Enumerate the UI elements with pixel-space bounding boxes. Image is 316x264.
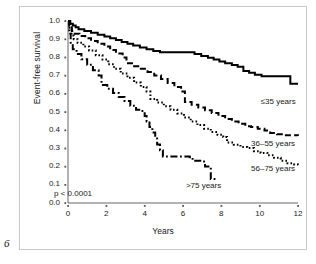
figure-root: 6 Event-free survival Years 0.00.10.20.3… — [0, 0, 316, 264]
x-tick-label: 2 — [96, 209, 116, 218]
y-tick-label: 0.7 — [38, 70, 60, 79]
series-label-3: >75 years — [186, 181, 221, 190]
chart-frame: Event-free survival Years 0.00.10.20.30.… — [19, 6, 307, 250]
x-tick-label: 0 — [58, 209, 78, 218]
x-tick-label: 12 — [288, 209, 308, 218]
y-tick-mark — [64, 148, 66, 150]
x-tick-mark — [144, 205, 146, 207]
y-tick-mark — [64, 166, 66, 168]
figure-number: 6 — [4, 238, 10, 249]
y-tick-mark — [64, 111, 66, 113]
y-tick-label: 0.4 — [38, 125, 60, 134]
y-tick-mark — [64, 75, 66, 77]
y-tick-mark — [64, 20, 66, 22]
y-tick-mark — [64, 93, 66, 95]
x-tick-mark — [106, 205, 108, 207]
x-axis-label: Years — [20, 226, 306, 236]
y-tick-mark — [64, 129, 66, 131]
x-tick-mark — [259, 205, 261, 207]
y-tick-label: 1.0 — [38, 16, 60, 25]
y-tick-label: 0.2 — [38, 161, 60, 170]
survival-curve-0 — [68, 21, 298, 84]
y-tick-label: 0.3 — [38, 143, 60, 152]
plot-area: Event-free survival Years 0.00.10.20.30.… — [20, 7, 306, 249]
x-tick-mark — [182, 205, 184, 207]
x-tick-mark — [67, 205, 69, 207]
x-tick-label: 10 — [250, 209, 270, 218]
series-label-0: ≤35 years — [261, 97, 296, 106]
y-tick-label: 0.6 — [38, 88, 60, 97]
y-tick-mark — [64, 57, 66, 59]
y-tick-label: 0.9 — [38, 34, 60, 43]
x-tick-label: 6 — [173, 209, 193, 218]
y-tick-mark — [64, 38, 66, 40]
y-tick-mark — [64, 202, 66, 204]
x-tick-label: 8 — [211, 209, 231, 218]
y-tick-mark — [64, 184, 66, 186]
x-tick-mark — [297, 205, 299, 207]
y-tick-label: 0.1 — [38, 179, 60, 188]
survival-curve-3 — [68, 21, 217, 179]
x-tick-mark — [221, 205, 223, 207]
y-tick-label: 0.5 — [38, 107, 60, 116]
series-label-2: 56–75 years — [251, 164, 295, 173]
y-tick-label: 0.8 — [38, 52, 60, 61]
y-tick-label: 0.0 — [38, 198, 60, 207]
p-value-annotation: p < 0.0001 — [54, 189, 92, 198]
series-label-1: 36–55 years — [251, 139, 295, 148]
x-tick-label: 4 — [135, 209, 155, 218]
